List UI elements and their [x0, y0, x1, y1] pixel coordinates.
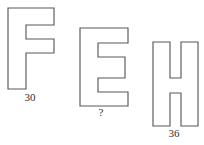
- block-letter-h-figure: [152, 41, 199, 127]
- letter-f-caption: 30: [13, 92, 47, 103]
- block-letter-h-svg: [152, 41, 199, 127]
- block-letter-e-figure: [79, 27, 129, 107]
- block-letter-f-shape: [8, 8, 54, 89]
- block-letter-h-shape: [153, 42, 198, 126]
- letter-h-caption: 36: [157, 128, 191, 139]
- block-letter-e-shape: [80, 28, 128, 106]
- figure-canvas: 30 ? 36: [0, 0, 204, 145]
- block-letter-e-svg: [79, 27, 129, 107]
- letter-e-caption: ?: [86, 107, 116, 118]
- block-letter-f-figure: [7, 7, 55, 90]
- block-letter-f-svg: [7, 7, 55, 90]
